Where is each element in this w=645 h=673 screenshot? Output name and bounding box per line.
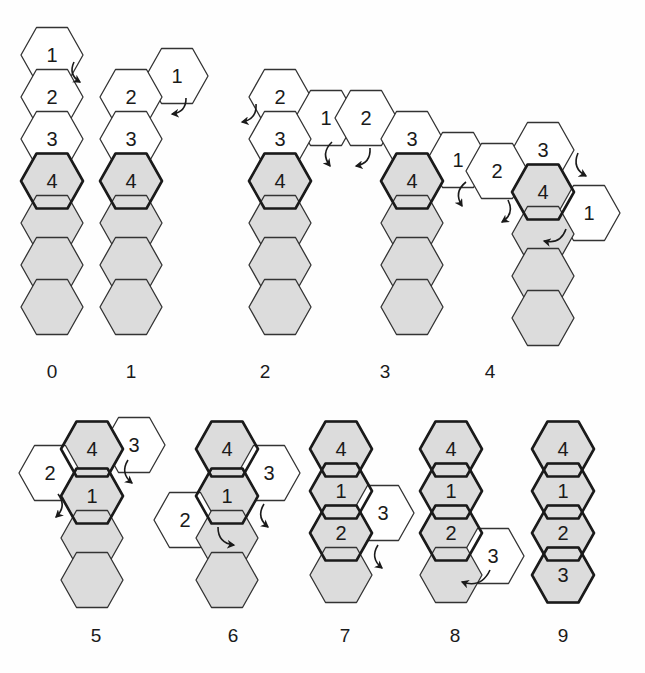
panel-7-hex-2-number: 2 (335, 522, 346, 544)
panel-6-label: 6 (228, 625, 239, 647)
panel-2-hex-body-3[interactable] (249, 280, 311, 335)
panel-6-hex-3-number: 3 (263, 462, 274, 484)
panel-2-hex-3-number: 3 (274, 128, 285, 150)
panel-7-hex-body-1[interactable] (310, 548, 372, 603)
panel-3: 2314 (335, 91, 489, 335)
panel-6: 4312 (154, 422, 300, 608)
panel-6-hex-body-2[interactable] (196, 553, 258, 608)
panel-9-hex-3-number: 3 (557, 564, 568, 586)
panel-1-hex-4-number: 4 (125, 170, 136, 192)
panel-6-hex-2-number: 2 (179, 509, 190, 531)
panel-7-hex-4-number: 4 (335, 438, 346, 460)
panel-4-rotation-arrow-left (502, 200, 510, 222)
panel-2-label: 2 (260, 361, 271, 383)
panel-3-hex-3-number: 3 (406, 128, 417, 150)
panel-0-hex-4-number: 4 (46, 170, 57, 192)
panel-2-hex-2-number: 2 (274, 86, 285, 108)
panel-5-label: 5 (91, 625, 102, 647)
panel-7-hex-1-number: 1 (335, 480, 346, 502)
panel-1-hex-3-number: 3 (125, 128, 136, 150)
panel-0: 1234 (21, 28, 83, 335)
panel-1-hex-2-number: 2 (125, 86, 136, 108)
panel-6-rotation-arrow-right (261, 504, 268, 527)
panel-8: 4123 (420, 422, 524, 603)
panel-0-label: 0 (47, 361, 58, 383)
panel-1-label: 1 (126, 361, 137, 383)
panel-9-hex-1-number: 1 (557, 480, 568, 502)
panel-5-hex-body-2[interactable] (61, 553, 123, 608)
panel-2-hex-4-number: 4 (274, 170, 285, 192)
panel-5-hex-1-number: 1 (86, 485, 97, 507)
panel-4-hex-4-number: 4 (537, 181, 548, 203)
panel-7-label: 7 (340, 625, 351, 647)
panel-1-hex-body-3[interactable] (100, 280, 162, 335)
panel-8-hex-1-number: 1 (445, 480, 456, 502)
panel-6-hex-1-number: 1 (221, 485, 232, 507)
panel-8-hex-3-number: 3 (487, 545, 498, 567)
panel-5-hex-4-number: 4 (86, 438, 97, 460)
panel-4-hex-body-3[interactable] (512, 291, 574, 346)
panel-4-label: 4 (485, 361, 496, 383)
panel-9-label: 9 (558, 625, 569, 647)
panel-3-label: 3 (380, 361, 391, 383)
panel-1-hex-1-number: 1 (171, 65, 182, 87)
panel-7-hex-3-number: 3 (377, 502, 388, 524)
panel-0-hex-1-number: 1 (46, 44, 57, 66)
panel-6-hex-4-number: 4 (221, 438, 232, 460)
panel-7: 4132 (310, 422, 414, 603)
panel-4-hex-3-number: 3 (537, 139, 548, 161)
panel-0-hex-2-number: 2 (46, 86, 57, 108)
panel-9: 4123 (532, 422, 594, 603)
hexagon-diagram: 1234123421342314324134214312413241234123 (0, 0, 645, 673)
panel-3-hex-body-3[interactable] (381, 280, 443, 335)
figure-canvas: 1234123421342314324134214312413241234123… (0, 0, 645, 673)
panel-4-hex-1-number: 1 (583, 202, 594, 224)
panel-8-hex-4-number: 4 (445, 438, 456, 460)
panel-5: 3421 (19, 418, 165, 608)
panel-5-hex-2-number: 2 (44, 462, 55, 484)
panel-3-rotation-arrow-left (356, 148, 370, 166)
panel-0-hex-3-number: 3 (46, 128, 57, 150)
panel-3-hex-4-number: 4 (406, 170, 417, 192)
panel-9-hex-2-number: 2 (557, 522, 568, 544)
panel-0-hex-body-3[interactable] (21, 280, 83, 335)
panel-8-label: 8 (450, 625, 461, 647)
panel-4-rotation-arrow-right (576, 153, 586, 176)
panel-1: 1234 (100, 49, 208, 335)
panel-5-hex-3-number: 3 (128, 434, 139, 456)
panel-3-hex-2-number: 2 (360, 107, 371, 129)
panel-2-hex-1-number: 1 (320, 107, 331, 129)
panel-8-hex-2-number: 2 (445, 522, 456, 544)
panel-9-hex-4-number: 4 (557, 438, 568, 460)
panel-3-hex-1-number: 1 (452, 149, 463, 171)
panel-4-hex-2-number: 2 (491, 160, 502, 182)
panel-4: 3241 (466, 123, 620, 346)
panel-7-rotation-arrow-right (375, 545, 382, 568)
